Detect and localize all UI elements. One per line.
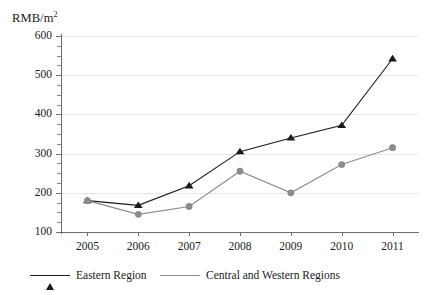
y-axis-minor-tick — [57, 163, 61, 164]
data-point-marker — [186, 203, 193, 210]
y-axis-minor-tick — [57, 173, 61, 174]
chart-container: RMB/m2 100200300400500600 20052006200720… — [0, 0, 425, 295]
legend-marker-central-western-regions — [160, 270, 200, 280]
data-point-marker — [389, 144, 396, 151]
legend-label-central-western-regions: Central and Western Regions — [206, 269, 340, 281]
y-axis-minor-tick — [57, 212, 61, 213]
data-point-marker — [287, 189, 294, 196]
data-point-marker — [237, 168, 244, 175]
y-axis-minor-tick — [57, 134, 61, 135]
x-axis-tick — [189, 232, 190, 236]
y-axis-tick — [56, 154, 62, 155]
y-axis-tick — [56, 232, 62, 233]
data-point-marker — [338, 161, 345, 168]
legend-item-central-western-regions[interactable]: Central and Western Regions — [160, 266, 340, 284]
y-axis-minor-tick — [57, 222, 61, 223]
y-axis-tick — [56, 193, 62, 194]
x-axis-tick — [87, 232, 88, 236]
y-axis-tick — [56, 114, 62, 115]
y-axis-minor-tick — [57, 95, 61, 96]
series-central-western-regions — [84, 144, 396, 217]
x-axis-tick — [291, 232, 292, 236]
chart-legend: Eastern Region Central and Western Regio… — [0, 266, 425, 286]
y-axis-minor-tick — [57, 56, 61, 57]
y-axis-minor-tick — [57, 144, 61, 145]
series-layer — [0, 0, 425, 295]
data-point-marker — [337, 121, 346, 128]
y-axis-minor-tick — [57, 183, 61, 184]
data-point-marker — [84, 197, 91, 204]
y-axis-minor-tick — [57, 203, 61, 204]
series-eastern-region — [83, 55, 397, 208]
data-point-marker — [185, 182, 194, 189]
data-point-marker — [135, 211, 142, 218]
x-axis-tick — [138, 232, 139, 236]
y-axis-minor-tick — [57, 124, 61, 125]
y-axis-minor-tick — [57, 46, 61, 47]
y-axis-minor-tick — [57, 65, 61, 66]
legend-marker-eastern-region — [30, 270, 70, 280]
x-axis-tick — [342, 232, 343, 236]
y-axis-minor-tick — [57, 105, 61, 106]
legend-label-eastern-region: Eastern Region — [76, 269, 147, 281]
x-axis-tick — [240, 232, 241, 236]
data-point-marker — [388, 55, 397, 62]
series-line — [87, 59, 392, 206]
y-axis-tick — [56, 75, 62, 76]
legend-item-eastern-region[interactable]: Eastern Region — [30, 266, 147, 284]
x-axis-tick — [393, 232, 394, 236]
y-axis-tick — [56, 36, 62, 37]
y-axis-minor-tick — [57, 85, 61, 86]
